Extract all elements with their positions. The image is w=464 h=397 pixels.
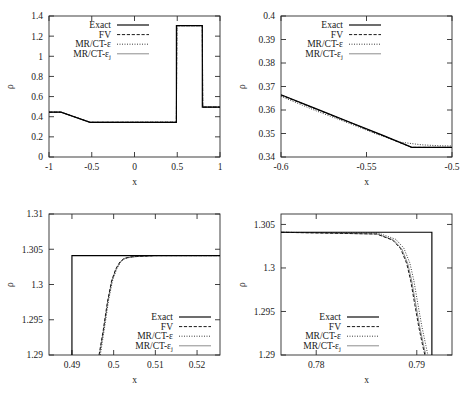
legend-label: MR/CT-ε <box>137 331 173 341</box>
legend: ExactFVMR/CT-εMR/CT-εj <box>135 312 211 353</box>
x-axis-label: x <box>132 177 137 187</box>
x-tick-label: -0.5 <box>84 162 99 172</box>
y-tick-label: 0.36 <box>258 105 275 115</box>
legend-label: MR/CT-εj <box>303 341 341 353</box>
chart-panel-top-left: 00.20.40.60.811.21.4-1-0.500.51xρExactFV… <box>0 0 232 199</box>
y-tick-label: 1.3 <box>31 280 43 290</box>
y-tick-label: 1.2 <box>31 32 43 42</box>
x-axis-label: x <box>132 375 137 385</box>
plot-frame <box>49 214 220 355</box>
y-axis-label: ρ <box>237 282 247 287</box>
plot-frame <box>49 16 220 157</box>
plot-top-right: 0.340.350.360.370.380.390.4-0.6-0.55-0.5… <box>232 0 464 199</box>
legend-label: MR/CT-εj <box>73 49 111 61</box>
y-tick-label: 0 <box>38 152 43 162</box>
plot-top-left: 00.20.40.60.811.21.4-1-0.500.51xρExactFV… <box>0 0 232 199</box>
y-tick-label: 1.3 <box>263 263 275 273</box>
x-tick-label: -0.5 <box>444 162 459 172</box>
series-line <box>281 232 432 355</box>
y-tick-label: 1.29 <box>26 350 43 360</box>
x-tick-label: -1 <box>45 162 53 172</box>
legend: ExactFVMR/CT-εMR/CT-εj <box>305 20 381 61</box>
legend-label: FV <box>331 30 343 40</box>
legend-label: Exact <box>319 312 341 322</box>
figure-panel-grid: 00.20.40.60.811.21.4-1-0.500.51xρExactFV… <box>0 0 464 397</box>
legend-label: MR/CT-ε <box>305 331 341 341</box>
series-line <box>281 95 452 148</box>
x-tick-label: 0.78 <box>308 360 325 370</box>
y-tick-label: 1.305 <box>254 220 276 230</box>
series-line <box>281 232 426 355</box>
chart-panel-bottom-left: 1.291.2951.31.3051.310.490.50.510.52xρEx… <box>0 198 232 397</box>
series-line <box>281 95 452 147</box>
legend-label: MR/CT-ε <box>307 39 343 49</box>
x-axis-label: x <box>364 375 369 385</box>
legend-label: FV <box>329 322 341 332</box>
chart-panel-bottom-right: 1.291.2951.31.3050.780.79xρExactFVMR/CT-… <box>232 198 464 397</box>
x-tick-label: 0.5 <box>171 162 183 172</box>
y-tick-label: 0.2 <box>31 132 43 142</box>
y-tick-label: 1 <box>38 52 43 62</box>
x-tick-label: 0.79 <box>408 360 425 370</box>
y-tick-label: 0.34 <box>258 152 275 162</box>
legend-label: MR/CT-εj <box>135 341 173 353</box>
plot-bottom-right: 1.291.2951.31.3050.780.79xρExactFVMR/CT-… <box>232 198 464 397</box>
y-axis-label: ρ <box>5 84 15 89</box>
y-tick-label: 0.37 <box>258 82 275 92</box>
legend-label: Exact <box>151 312 173 322</box>
legend: ExactFVMR/CT-εMR/CT-εj <box>73 20 149 61</box>
y-tick-label: 0.6 <box>31 92 43 102</box>
y-tick-label: 1.29 <box>258 350 275 360</box>
legend-label: Exact <box>89 20 111 30</box>
y-tick-label: 0.8 <box>31 72 43 82</box>
legend-label: Exact <box>321 20 343 30</box>
y-tick-label: 0.4 <box>263 11 275 21</box>
y-tick-label: 1.305 <box>22 245 44 255</box>
y-axis-label: ρ <box>237 84 247 89</box>
y-axis-label: ρ <box>5 282 15 287</box>
x-tick-label: 0.5 <box>108 360 120 370</box>
y-tick-label: 1.295 <box>254 307 276 317</box>
y-tick-label: 1.31 <box>26 209 43 219</box>
chart-panel-top-right: 0.340.350.360.370.380.390.4-0.6-0.55-0.5… <box>232 0 464 199</box>
x-tick-label: 0 <box>132 162 137 172</box>
series-line <box>281 95 452 147</box>
x-tick-label: 0.49 <box>64 360 81 370</box>
legend-label: FV <box>161 322 173 332</box>
legend: ExactFVMR/CT-εMR/CT-εj <box>303 312 379 353</box>
x-tick-label: -0.6 <box>273 162 288 172</box>
x-tick-label: 1 <box>218 162 223 172</box>
legend-label: MR/CT-εj <box>305 49 343 61</box>
y-tick-label: 0.35 <box>258 129 275 139</box>
x-tick-label: 0.51 <box>147 360 164 370</box>
x-tick-label: 0.52 <box>189 360 206 370</box>
y-tick-label: 0.39 <box>258 35 275 45</box>
y-tick-label: 0.4 <box>31 112 43 122</box>
plot-frame <box>281 16 452 157</box>
series-line <box>281 96 452 146</box>
x-axis-label: x <box>364 177 369 187</box>
plot-bottom-left: 1.291.2951.31.3051.310.490.50.510.52xρEx… <box>0 198 232 397</box>
series-line <box>281 232 428 355</box>
y-tick-label: 0.38 <box>258 58 275 68</box>
legend-label: MR/CT-ε <box>75 39 111 49</box>
y-tick-label: 1.4 <box>31 11 43 21</box>
y-tick-label: 1.295 <box>22 315 44 325</box>
legend-label: FV <box>99 30 111 40</box>
x-tick-label: -0.55 <box>357 162 377 172</box>
